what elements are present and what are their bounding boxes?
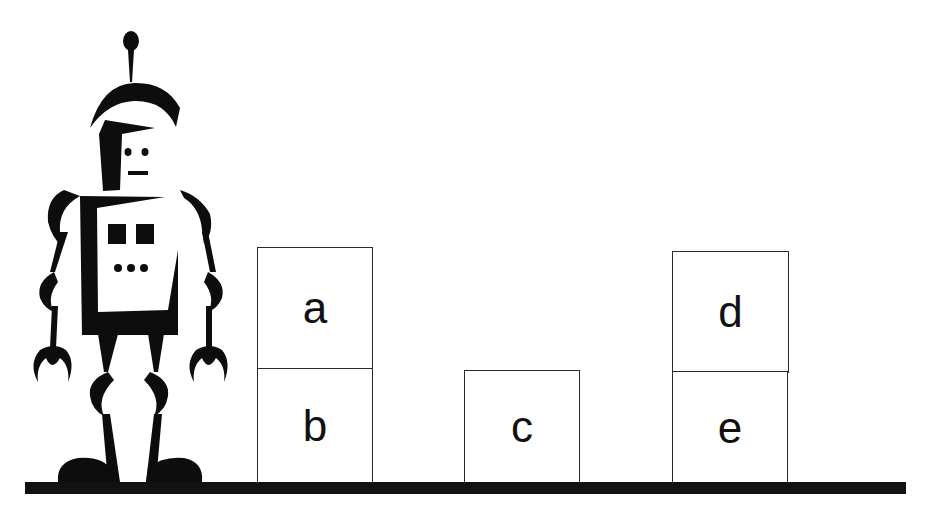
block-c: c bbox=[464, 370, 580, 484]
block-b: b bbox=[257, 368, 373, 484]
blocks-world-scene: a b c d e bbox=[0, 0, 934, 524]
robot-icon bbox=[0, 0, 250, 500]
block-label: e bbox=[718, 406, 742, 450]
block-e: e bbox=[672, 371, 788, 484]
block-label: a bbox=[303, 286, 327, 330]
block-label: c bbox=[511, 405, 533, 449]
block-a: a bbox=[257, 247, 373, 369]
block-label: b bbox=[303, 404, 327, 448]
table-surface bbox=[25, 482, 906, 494]
block-d: d bbox=[672, 251, 789, 373]
block-label: d bbox=[718, 290, 742, 334]
